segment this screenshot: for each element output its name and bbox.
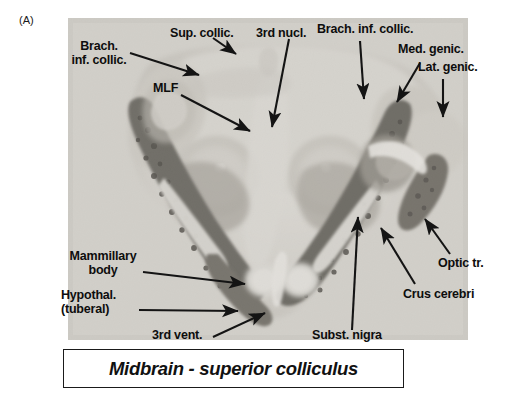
- panel-letter: (A): [19, 14, 34, 26]
- caption-box: Midbrain - superior colliculus: [63, 349, 404, 388]
- label-subst-nigra: Subst. nigra: [312, 328, 382, 342]
- label-mammillary-body: Mammillary body: [57, 249, 149, 277]
- label-optic-tr: Optic tr.: [438, 256, 483, 270]
- label-brach-inf-collic-right: Brach. inf. collic.: [317, 22, 413, 36]
- label-crus-cerebri: Crus cerebri: [403, 287, 474, 301]
- label-lat-genic: Lat. genic.: [418, 60, 478, 74]
- caption-text: Midbrain - superior colliculus: [64, 358, 403, 380]
- label-third-vent: 3rd vent.: [152, 328, 202, 342]
- label-med-genic: Med. genic.: [398, 42, 464, 56]
- label-third-nucl: 3rd nucl.: [256, 26, 306, 40]
- label-sup-collic: Sup. collic.: [170, 26, 234, 40]
- label-hypothal-tuberal: Hypothal. (tuberal): [61, 288, 116, 316]
- label-brach-inf-collic-left: Brach. inf. collic.: [60, 39, 138, 67]
- figure-panel: (A): [0, 0, 526, 406]
- label-mlf: MLF: [153, 81, 178, 95]
